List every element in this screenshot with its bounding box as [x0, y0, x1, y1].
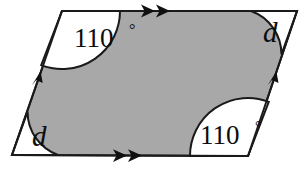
parallelogram-diagram: 110 ° d d 110 ° [0, 0, 307, 172]
angle-label-top-right: d [263, 16, 278, 48]
edge-bottom [12, 155, 248, 156]
angle-label-top-right-value: d [263, 16, 278, 48]
angle-label-bottom-left-value: d [32, 120, 47, 152]
angle-label-bottom-right-value: 110 [200, 120, 240, 150]
angle-label-bottom-left: d [32, 120, 47, 152]
degree-symbol-icon: ° [129, 21, 135, 38]
degree-symbol-icon: ° [255, 118, 261, 135]
geometry-figure-canvas: 110 ° d d 110 ° [0, 0, 307, 172]
angle-label-top-left-value: 110 [74, 23, 114, 53]
